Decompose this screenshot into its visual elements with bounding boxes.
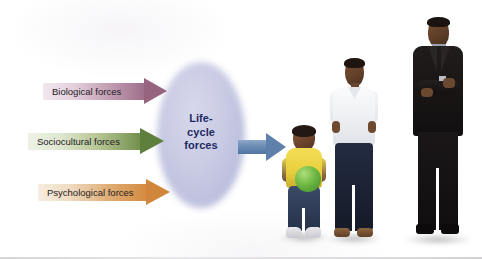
teen-left-sandal bbox=[334, 228, 350, 237]
person-adult bbox=[409, 18, 467, 242]
adult-left-shoe bbox=[416, 224, 434, 234]
toddler-hair bbox=[292, 125, 316, 137]
teen-right-sandal bbox=[357, 228, 373, 237]
psychological-forces-arrow: Psychological forces bbox=[38, 179, 172, 206]
life-cycle-forces-figure: Life- cycle forces Biological forces Soc… bbox=[0, 0, 482, 259]
teen-leg-gap bbox=[352, 185, 355, 233]
adult-hair bbox=[427, 17, 450, 27]
adult-left-hand bbox=[443, 78, 455, 88]
biological-forces-label: Biological forces bbox=[43, 86, 121, 97]
sociocultural-forces-label: Sociocultural forces bbox=[28, 136, 120, 147]
teen-right-hand bbox=[368, 121, 376, 133]
psychological-arrow-head-icon bbox=[146, 179, 170, 205]
biological-arrow-head-icon bbox=[144, 78, 167, 104]
toddler-leg-gap bbox=[302, 208, 305, 232]
person-toddler bbox=[281, 126, 327, 240]
teen-left-hand bbox=[332, 121, 340, 133]
sociocultural-arrow-head-icon bbox=[140, 128, 164, 154]
biological-forces-arrow: Biological forces bbox=[43, 78, 167, 105]
teen-hair bbox=[344, 58, 365, 68]
outcome-arrow-shaft bbox=[238, 140, 268, 154]
person-teen bbox=[330, 59, 378, 241]
life-cycle-label-line-3: forces bbox=[157, 139, 245, 153]
adult-right-hand bbox=[421, 88, 433, 97]
life-cycle-label: Life- cycle forces bbox=[157, 112, 245, 153]
toddler-ball bbox=[295, 166, 321, 192]
toddler-left-shoe bbox=[286, 227, 302, 238]
adult-leg-gap bbox=[436, 168, 439, 230]
adult-right-shoe bbox=[441, 224, 459, 234]
life-cycle-label-line-2: cycle bbox=[157, 126, 245, 140]
psychological-forces-label: Psychological forces bbox=[38, 187, 134, 198]
life-cycle-label-line-1: Life- bbox=[157, 112, 245, 126]
sociocultural-forces-arrow: Sociocultural forces bbox=[28, 128, 167, 155]
toddler-right-shoe bbox=[305, 227, 321, 238]
outcome-arrow-icon bbox=[238, 133, 286, 161]
